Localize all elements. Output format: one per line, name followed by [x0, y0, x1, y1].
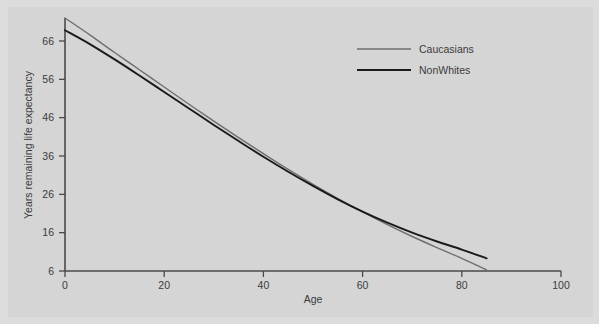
x-tick-label: 40 — [258, 279, 270, 291]
axes-group — [65, 18, 561, 271]
legend-label-nonwhites: NonWhites — [419, 64, 470, 76]
data-series-group — [65, 18, 487, 270]
y-axis-ticks: 6162636465666 — [42, 35, 65, 277]
y-tick-label: 26 — [42, 188, 54, 200]
legend-label-caucasians: Caucasians — [419, 43, 474, 55]
x-tick-label: 100 — [552, 279, 570, 291]
x-tick-label: 60 — [357, 279, 369, 291]
y-tick-label: 56 — [42, 73, 54, 85]
x-axis-title: Age — [304, 293, 323, 305]
y-tick-label: 16 — [42, 226, 54, 238]
line-chart: 6162636465666 020406080100 Years remaini… — [0, 0, 599, 324]
y-tick-label: 6 — [48, 265, 54, 277]
x-axis-ticks: 020406080100 — [62, 271, 570, 291]
chart-legend: CaucasiansNonWhites — [357, 43, 474, 76]
y-axis-title: Years remaining life expectancy — [22, 70, 34, 219]
series-line-caucasians — [65, 18, 487, 270]
y-tick-label: 66 — [42, 35, 54, 47]
chart-figure: 6162636465666 020406080100 Years remaini… — [0, 0, 599, 324]
y-tick-label: 46 — [42, 111, 54, 123]
y-tick-label: 36 — [42, 150, 54, 162]
x-tick-label: 0 — [62, 279, 68, 291]
x-tick-label: 20 — [158, 279, 170, 291]
x-tick-label: 80 — [456, 279, 468, 291]
